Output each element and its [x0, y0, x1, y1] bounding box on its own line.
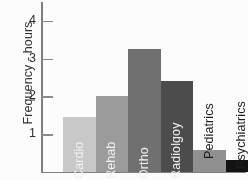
bar-chart-figure: Frequency - hours 1234 CardioRehabOrthoR…	[0, 0, 248, 180]
bar-label-cardio: Cardio	[72, 142, 86, 179]
bar-label-rehab: Rehab	[104, 142, 118, 179]
bar-label-ortho: Ortho	[137, 147, 151, 179]
y-tick-label: 3	[20, 51, 36, 65]
bar-label-radiolgoy: Radiolgoy	[169, 123, 183, 180]
plot-area: CardioRehabOrthoRadiolgoyPediatricsPsych…	[42, 0, 248, 172]
y-tick-label: 1	[20, 126, 36, 140]
bar-label-psychiatrics: Psychiatrics	[234, 101, 248, 169]
bar-label-pediatrics: Pediatrics	[202, 103, 216, 159]
y-tick-label: 2	[20, 88, 36, 102]
y-tick-label: 4	[20, 13, 36, 27]
